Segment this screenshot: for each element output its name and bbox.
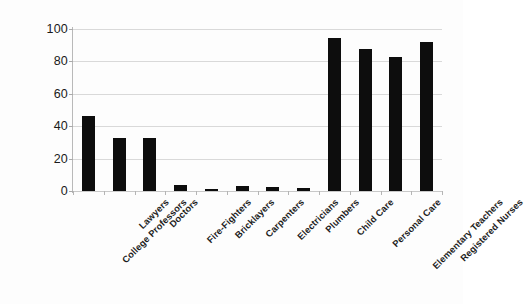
gridline-80: [73, 61, 442, 62]
y-tick-label-80: 80: [54, 54, 68, 68]
gridline-100: [73, 29, 442, 30]
plot-area: [73, 29, 442, 191]
bar: [420, 42, 433, 191]
y-tick-label-60: 60: [54, 87, 68, 101]
bar: [359, 49, 372, 191]
y-tick-label-20: 20: [54, 152, 68, 166]
x-axis-baseline: [73, 191, 442, 192]
y-tick-label-100: 100: [47, 22, 68, 36]
x-tick-label: Child Care: [355, 197, 396, 238]
y-axis-tick-labels: 020406080100: [30, 29, 68, 191]
y-tick-mark-100: [69, 29, 73, 30]
bar: [113, 138, 126, 191]
y-tick-mark-60: [69, 94, 73, 95]
gridline-40: [73, 126, 442, 127]
gridline-20: [73, 159, 442, 160]
bar: [82, 116, 95, 191]
y-tick-mark-80: [69, 61, 73, 62]
y-tick-label-40: 40: [54, 119, 68, 133]
gridline-60: [73, 94, 442, 95]
bar: [389, 57, 402, 191]
bar: [143, 138, 156, 191]
bar: [328, 38, 341, 191]
x-tick-label: Personal Care: [391, 197, 443, 249]
x-axis-tick-labels: College ProfessorsLawyersDoctorsFire-Fig…: [0, 195, 463, 304]
y-tick-mark-20: [69, 159, 73, 160]
y-tick-mark-40: [69, 126, 73, 127]
